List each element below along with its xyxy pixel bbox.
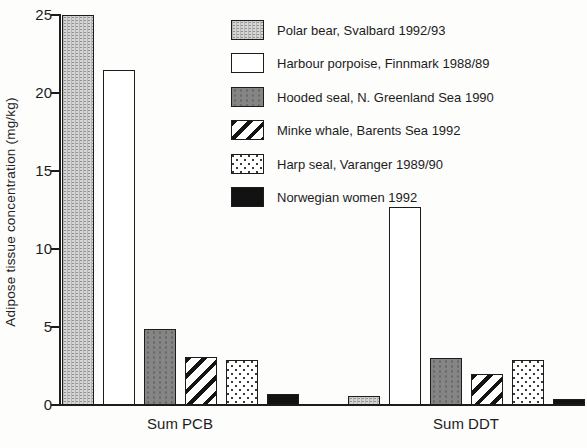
legend-item: Minke whale, Barents Sea 1992 [231, 120, 461, 140]
bar-chart-figure: Adipose tissue concentration (mg/kg) 051… [0, 0, 587, 448]
y-tick-label: 25 [16, 6, 52, 23]
legend-label: Harbour porpoise, Finnmark 1988/89 [277, 56, 489, 71]
legend-item: Hooded seal, N. Greenland Sea 1990 [231, 87, 494, 107]
bar-porpoise-ddt [389, 207, 421, 405]
legend-label: Minke whale, Barents Sea 1992 [277, 123, 461, 138]
y-axis-title: Adipose tissue concentration (mg/kg) [3, 62, 21, 362]
y-tick-label: 20 [16, 84, 52, 101]
legend-item: Harbour porpoise, Finnmark 1988/89 [231, 53, 489, 73]
y-tick-label: 0 [16, 396, 52, 413]
legend-item: Polar bear, Svalbard 1992/93 [231, 20, 445, 40]
bar-women-ddt [553, 399, 585, 405]
bar-hooded-ddt [430, 358, 462, 405]
y-axis-line [59, 14, 61, 406]
y-tick-label: 5 [16, 318, 52, 335]
y-tick [51, 404, 60, 406]
legend-swatch-polar [231, 20, 264, 40]
bar-harp-ddt [512, 360, 544, 405]
bar-harp-pcb [226, 360, 258, 405]
y-tick [51, 92, 60, 94]
legend-swatch-hooded [231, 87, 264, 107]
legend-label: Polar bear, Svalbard 1992/93 [277, 23, 445, 38]
bar-minke-ddt [471, 374, 503, 405]
legend-item: Norwegian women 1992 [231, 187, 417, 207]
group-label-sum-ddt: Sum DDT [406, 415, 526, 432]
legend-label: Harp seal, Varanger 1989/90 [277, 157, 443, 172]
bar-women-pcb [267, 394, 299, 405]
y-tick-label: 15 [16, 162, 52, 179]
legend-swatch-harp [231, 154, 264, 174]
bar-hooded-pcb [144, 329, 176, 405]
y-tick [51, 170, 60, 172]
legend-swatch-women [231, 187, 264, 207]
bar-polar-ddt [348, 396, 380, 405]
y-tick-label: 10 [16, 240, 52, 257]
legend-swatch-porpoise [231, 53, 264, 73]
y-tick [51, 14, 60, 16]
y-tick [51, 248, 60, 250]
bar-polar-pcb [62, 15, 94, 405]
y-tick [51, 326, 60, 328]
legend-label: Hooded seal, N. Greenland Sea 1990 [277, 90, 494, 105]
legend-label: Norwegian women 1992 [277, 190, 417, 205]
legend-swatch-minke [231, 120, 264, 140]
bar-porpoise-pcb [103, 70, 135, 405]
group-label-sum-pcb: Sum PCB [120, 415, 240, 432]
x-axis-line [59, 404, 585, 406]
legend-item: Harp seal, Varanger 1989/90 [231, 154, 443, 174]
bar-minke-pcb [185, 357, 217, 405]
